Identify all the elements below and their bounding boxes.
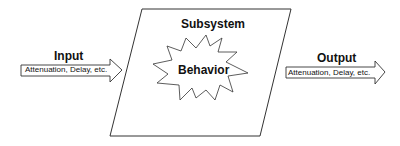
output-title: Output [317,51,356,65]
input-title: Input [54,49,83,63]
behavior-label: Behavior [178,63,229,77]
output-arrow-label: Attenuation, Delay, etc. [288,68,370,77]
subsystem-title: Subsystem [181,17,245,31]
input-arrow-label: Attenuation, Delay, etc. [25,65,107,74]
